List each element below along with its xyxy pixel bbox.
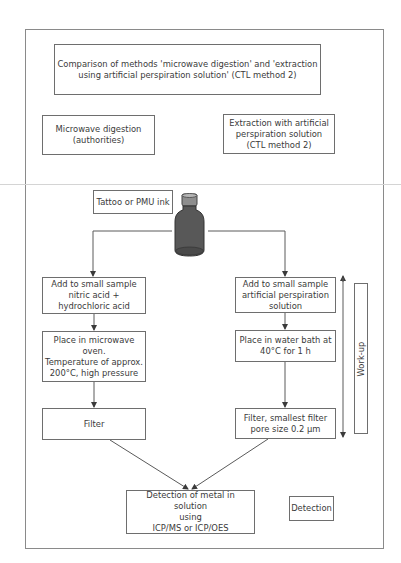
detection-step: Detection of metal in solution using ICP… xyxy=(126,490,255,534)
phase-workup-label: Work-up xyxy=(354,283,368,434)
right-step-water-bath: Place in water bath at 40°C for 1 h xyxy=(235,330,336,362)
right-step-filter: Filter, smallest filter pore size 0.2 µm xyxy=(235,408,336,439)
ink-bottle-icon xyxy=(172,192,208,258)
left-step-add-acids: Add to small sample nitric acid + hydroc… xyxy=(42,277,146,314)
left-step-microwave-oven: Place in microwave oven. Temperature of … xyxy=(42,331,146,382)
phase-detection-label: Detection xyxy=(289,496,334,521)
right-step-add-perspiration: Add to small sample artificial perspirat… xyxy=(235,277,336,313)
left-step-filter: Filter xyxy=(42,408,146,440)
phase-workup-text: Work-up xyxy=(356,341,366,376)
